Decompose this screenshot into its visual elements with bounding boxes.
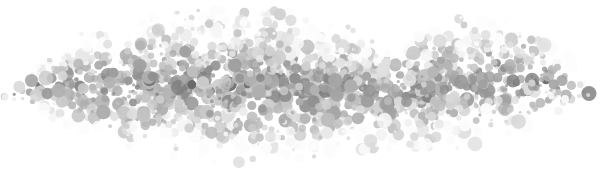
dot-cloud-canvas xyxy=(0,0,605,177)
dot-cloud-figure xyxy=(0,0,605,177)
